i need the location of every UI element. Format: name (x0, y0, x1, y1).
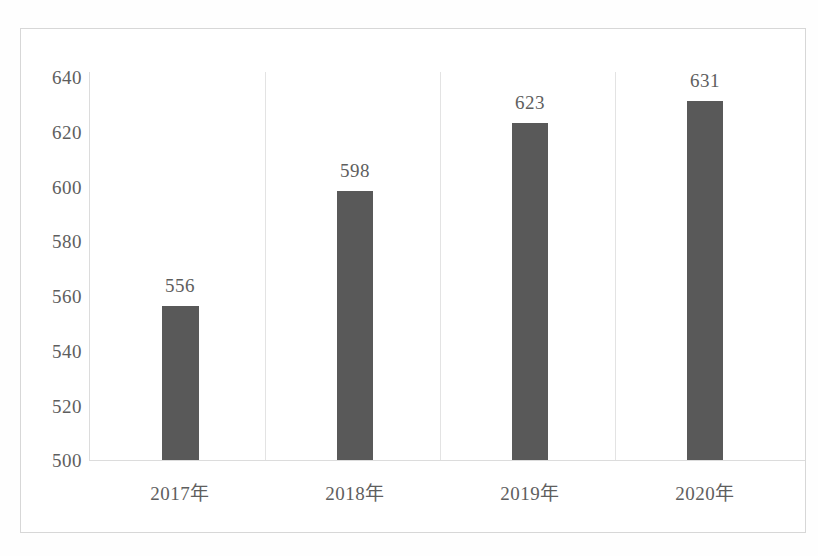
data-label-2019: 623 (515, 93, 545, 112)
chart-page: 640 620 600 580 560 540 520 500 556 598 … (0, 0, 818, 556)
x-axis-category-labels: 2017年 2018年 2019年 2020年 (0, 478, 818, 506)
bar-2018[interactable] (337, 191, 373, 460)
bar-column (512, 72, 548, 460)
bars-layer (0, 72, 818, 460)
bar-2017[interactable] (162, 306, 199, 460)
x-axis-label-2017: 2017年 (150, 478, 210, 505)
data-label-2018: 598 (340, 161, 370, 180)
bar-column (162, 72, 199, 460)
bar-2020[interactable] (687, 101, 723, 460)
bar-column (687, 72, 723, 460)
data-label-2020: 631 (690, 71, 720, 90)
category-axis-line (89, 460, 805, 461)
data-label-2017: 556 (165, 276, 195, 295)
x-axis-label-2018: 2018年 (325, 478, 385, 505)
x-axis-label-2019: 2019年 (500, 478, 560, 505)
bar-2019[interactable] (512, 123, 548, 460)
x-axis-label-2020: 2020年 (675, 478, 735, 505)
bar-column (337, 72, 373, 460)
